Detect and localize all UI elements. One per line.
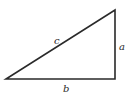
triangle-diagram: c a b <box>0 0 130 96</box>
horizontal-side-label: b <box>63 83 69 94</box>
vertical-side-label: a <box>119 41 125 52</box>
right-triangle <box>6 10 115 79</box>
hypotenuse-label: c <box>54 35 60 46</box>
triangle-svg: c a b <box>0 0 130 96</box>
